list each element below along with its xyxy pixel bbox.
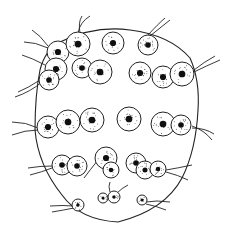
flagellum: [166, 165, 192, 170]
flagellum: [117, 185, 128, 193]
cell: [66, 32, 90, 56]
cell: [103, 162, 119, 178]
cell: [67, 156, 87, 176]
flagellum: [146, 201, 170, 202]
cell: [72, 199, 84, 211]
cell: [171, 115, 191, 135]
cell: [102, 32, 124, 54]
flagellum: [52, 208, 74, 212]
flagellum: [194, 60, 220, 72]
cell: [80, 108, 104, 132]
cell: [37, 116, 59, 138]
cell: [137, 195, 147, 205]
flagellum: [109, 182, 110, 192]
flagellum: [22, 55, 45, 65]
flagellum: [146, 204, 166, 210]
cell: [138, 35, 158, 55]
flagellum: [12, 122, 38, 128]
flagellum: [12, 130, 38, 135]
cell: [117, 107, 141, 131]
cell: [170, 62, 194, 86]
cell: [88, 60, 112, 84]
cell: [129, 62, 151, 84]
cell: [39, 70, 59, 90]
flagellum: [50, 206, 74, 207]
cell: [98, 193, 108, 203]
nucleus: [89, 117, 96, 124]
flagellum: [194, 56, 215, 70]
drawing-svg: [0, 0, 235, 237]
cell: [56, 110, 80, 134]
flagellum: [24, 42, 48, 48]
cell-colony-drawing: [0, 0, 235, 237]
flagellum: [30, 168, 52, 175]
cells-group: [37, 32, 194, 211]
cell: [150, 161, 166, 177]
flagellum: [28, 166, 52, 168]
cell: [108, 191, 120, 203]
nucleus: [145, 42, 151, 48]
nucleus: [45, 124, 51, 130]
